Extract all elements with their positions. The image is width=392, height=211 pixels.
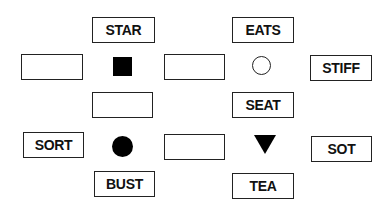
word-sot: SOT	[328, 141, 356, 157]
word-star: STAR	[106, 22, 142, 38]
blank-box-left-top[interactable]	[21, 54, 83, 80]
filled-circle-icon	[112, 136, 133, 157]
word-box-eats: EATS	[232, 17, 294, 43]
word-box-sort: SORT	[23, 132, 84, 158]
filled-square-icon	[113, 57, 132, 76]
word-box-tea: TEA	[232, 173, 294, 199]
word-tea: TEA	[249, 178, 276, 194]
word-box-seat: SEAT	[232, 92, 294, 118]
word-stiff: STIFF	[322, 60, 359, 76]
word-box-sot: SOT	[311, 136, 372, 162]
word-bust: BUST	[106, 176, 143, 192]
word-box-star: STAR	[92, 17, 155, 43]
blank-box-mid-top[interactable]	[164, 54, 225, 80]
word-seat: SEAT	[245, 97, 280, 113]
word-sort: SORT	[35, 137, 73, 153]
hollow-circle-icon	[252, 56, 271, 75]
blank-box-under-square[interactable]	[92, 92, 153, 118]
filled-triangle-down-icon	[254, 135, 276, 154]
word-box-stiff: STIFF	[310, 55, 372, 81]
blank-box-mid-bottom[interactable]	[164, 134, 225, 160]
word-box-bust: BUST	[94, 171, 155, 197]
word-eats: EATS	[245, 22, 280, 38]
